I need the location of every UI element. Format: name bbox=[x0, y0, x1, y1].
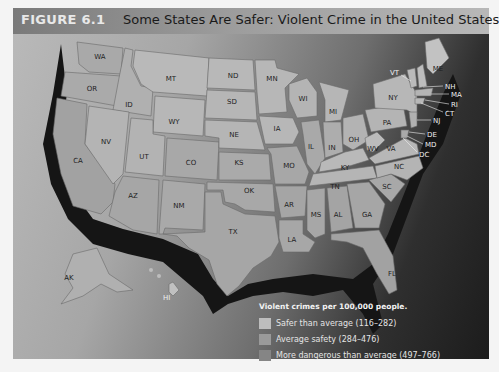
svg-text:CO: CO bbox=[186, 159, 197, 167]
legend-title: Violent crimes per 100,000 people. bbox=[259, 302, 489, 311]
svg-text:WY: WY bbox=[168, 118, 180, 126]
state-hi bbox=[169, 282, 179, 296]
svg-text:VT: VT bbox=[390, 69, 400, 77]
figure-frame: FIGURE 6.1 Some States Are Safer: Violen… bbox=[13, 8, 489, 362]
svg-text:WI: WI bbox=[299, 95, 308, 103]
state-az bbox=[109, 176, 159, 234]
svg-text:WV: WV bbox=[367, 145, 379, 153]
svg-text:GA: GA bbox=[362, 211, 372, 219]
map-legend: Violent crimes per 100,000 people. Safer… bbox=[259, 302, 489, 363]
svg-text:SD: SD bbox=[227, 98, 237, 106]
svg-text:DC: DC bbox=[419, 151, 429, 159]
legend-swatch bbox=[259, 318, 271, 329]
figure-title-bar: FIGURE 6.1 Some States Are Safer: Violen… bbox=[13, 8, 489, 34]
svg-text:NY: NY bbox=[388, 94, 398, 102]
svg-text:NE: NE bbox=[229, 131, 239, 139]
svg-text:AZ: AZ bbox=[128, 192, 138, 200]
svg-text:HI: HI bbox=[163, 294, 170, 302]
hi-island bbox=[157, 274, 161, 278]
svg-text:MI: MI bbox=[329, 108, 337, 116]
legend-swatch bbox=[259, 334, 271, 345]
svg-text:CA: CA bbox=[73, 157, 83, 165]
svg-text:NM: NM bbox=[173, 202, 184, 210]
figure-title: Some States Are Safer: Violent Crime in … bbox=[123, 12, 499, 27]
state-oh bbox=[343, 114, 369, 150]
svg-text:AK: AK bbox=[64, 274, 74, 282]
svg-text:IN: IN bbox=[328, 144, 335, 152]
svg-text:DE: DE bbox=[427, 131, 437, 139]
svg-text:CT: CT bbox=[445, 110, 455, 118]
svg-text:MN: MN bbox=[266, 75, 277, 83]
state-nh bbox=[417, 64, 427, 88]
svg-text:WA: WA bbox=[94, 53, 106, 61]
state-in bbox=[323, 122, 343, 158]
legend-item-average: Average safety (284–476) bbox=[259, 331, 489, 347]
svg-text:KY: KY bbox=[341, 164, 350, 172]
state-md bbox=[401, 130, 409, 138]
us-map: WA OR CA ID NV MT WY UT CO AZ NM ND SD N… bbox=[13, 34, 489, 359]
svg-text:PA: PA bbox=[383, 119, 392, 127]
svg-text:IA: IA bbox=[274, 125, 281, 133]
svg-text:FL: FL bbox=[388, 270, 396, 278]
svg-text:NV: NV bbox=[101, 138, 111, 146]
svg-text:ME: ME bbox=[433, 65, 443, 73]
svg-text:IL: IL bbox=[308, 143, 314, 151]
svg-text:KS: KS bbox=[234, 159, 244, 167]
svg-text:NJ: NJ bbox=[433, 117, 440, 125]
state-ma bbox=[415, 88, 433, 96]
svg-text:LA: LA bbox=[288, 236, 297, 244]
svg-text:MO: MO bbox=[283, 162, 295, 170]
svg-text:NH: NH bbox=[445, 83, 456, 91]
hi-island bbox=[149, 268, 153, 272]
legend-item-safer: Safer than average (116–282) bbox=[259, 315, 489, 331]
svg-text:TX: TX bbox=[227, 228, 237, 236]
svg-text:UT: UT bbox=[139, 153, 149, 161]
svg-text:AL: AL bbox=[334, 211, 343, 219]
state-wy bbox=[153, 96, 205, 136]
svg-text:ID: ID bbox=[125, 101, 132, 109]
legend-swatch bbox=[259, 350, 271, 361]
svg-text:NC: NC bbox=[394, 163, 404, 171]
svg-text:MS: MS bbox=[311, 211, 322, 219]
svg-text:SC: SC bbox=[382, 183, 391, 191]
state-ks bbox=[219, 152, 271, 180]
svg-text:AR: AR bbox=[284, 201, 294, 209]
svg-text:VA: VA bbox=[386, 145, 395, 153]
svg-text:MD: MD bbox=[425, 141, 436, 149]
svg-text:OR: OR bbox=[87, 85, 98, 93]
svg-text:TN: TN bbox=[329, 183, 340, 191]
state-ct bbox=[415, 98, 425, 104]
svg-text:OK: OK bbox=[244, 187, 255, 195]
svg-text:OH: OH bbox=[349, 136, 360, 144]
figure-label: FIGURE 6.1 bbox=[21, 12, 105, 27]
svg-text:MA: MA bbox=[451, 91, 462, 99]
svg-text:MT: MT bbox=[166, 75, 177, 83]
state-nj bbox=[409, 112, 417, 128]
svg-text:RI: RI bbox=[451, 101, 458, 109]
legend-item-dangerous: More dangerous than average (497–766) bbox=[259, 347, 489, 363]
state-mi bbox=[319, 82, 349, 122]
svg-text:ND: ND bbox=[228, 72, 239, 80]
